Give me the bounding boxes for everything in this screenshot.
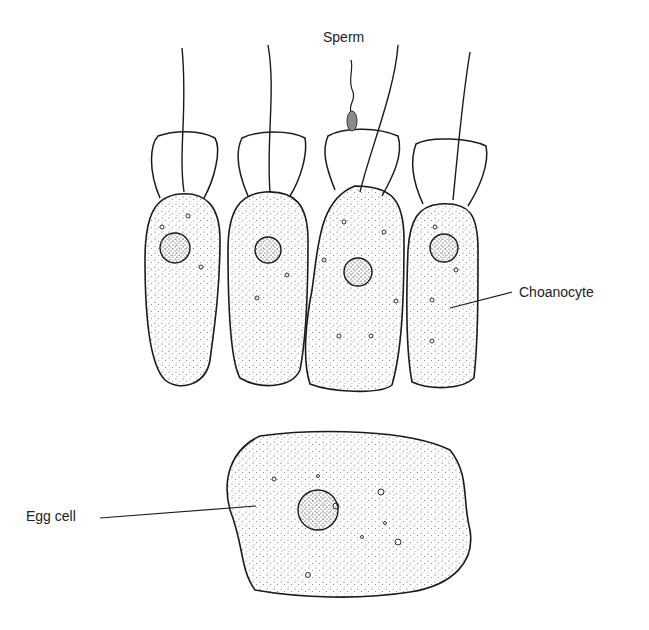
label-choanocyte: Choanocyte — [519, 284, 594, 300]
label-sperm: Sperm — [323, 29, 364, 45]
choanocyte-fertilization-diagram — [0, 0, 649, 630]
flagella — [182, 45, 470, 200]
egg-cell — [227, 432, 471, 597]
choanocyte-cells — [145, 186, 478, 391]
label-egg-cell: Egg cell — [26, 508, 76, 524]
sperm — [347, 60, 357, 131]
collars — [152, 129, 487, 206]
